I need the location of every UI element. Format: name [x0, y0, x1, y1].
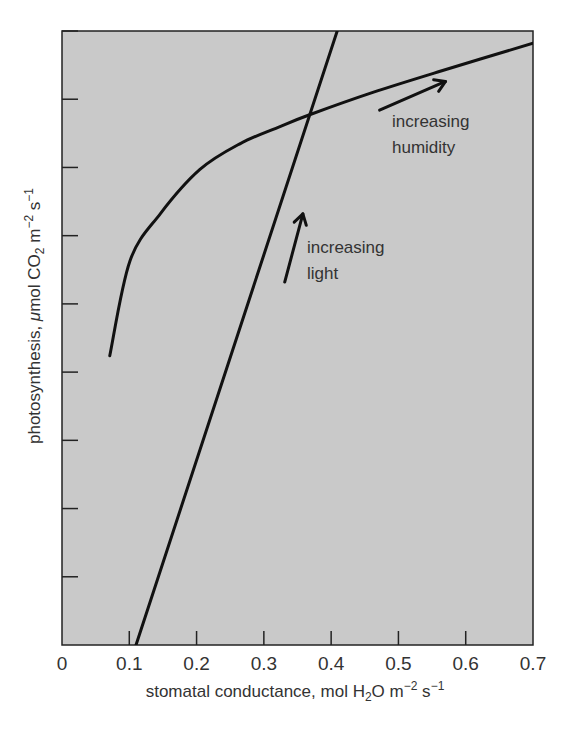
- x-tick-label: 0.4: [318, 653, 345, 674]
- x-tick-label: 0.6: [453, 653, 479, 674]
- annotation-text: increasing: [307, 238, 385, 257]
- annotation-text: light: [307, 264, 338, 283]
- annotation-text: humidity: [392, 138, 456, 157]
- chart: 00.10.20.30.40.50.60.7 increasinghumidit…: [0, 0, 573, 732]
- x-tick-label: 0: [57, 653, 68, 674]
- y-axis-label: photosynthesis, μmol CO2 m−2 s−1: [22, 188, 47, 444]
- x-tick-label: 0.5: [385, 653, 411, 674]
- x-tick-label: 0.1: [116, 653, 142, 674]
- x-tick-label: 0.7: [520, 653, 546, 674]
- x-axis-tick-labels: 00.10.20.30.40.50.60.7: [57, 653, 547, 674]
- x-tick-label: 0.3: [251, 653, 277, 674]
- x-tick-label: 0.2: [183, 653, 209, 674]
- x-axis-label: stomatal conductance, mol H2O m−2 s−1: [146, 679, 445, 704]
- annotation-text: increasing: [392, 112, 470, 131]
